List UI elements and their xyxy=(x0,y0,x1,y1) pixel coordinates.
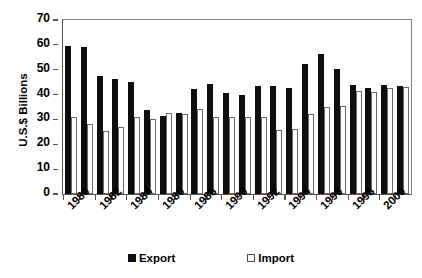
x-axis-label-cell: 2000 xyxy=(379,201,395,251)
x-axis-label-cell: 1990 xyxy=(221,201,237,251)
year-bar-group xyxy=(316,20,332,194)
bar-import xyxy=(387,88,393,194)
x-axis-label-cell xyxy=(237,201,253,251)
x-axis-label-cell xyxy=(205,201,221,251)
year-bar-group xyxy=(221,20,237,194)
x-axis-tick-mark xyxy=(126,195,127,200)
year-bar-group xyxy=(237,20,253,194)
bar-chart-figure: U.S.$ Billions 706050403020100 198019821… xyxy=(0,0,422,278)
legend-entry: Export xyxy=(128,252,175,264)
bar-import xyxy=(261,117,267,194)
legend-entry: Import xyxy=(247,252,294,264)
y-axis-tick-label: 70 xyxy=(37,12,50,24)
year-bar-group xyxy=(284,20,300,194)
x-axis-label-cell xyxy=(363,201,379,251)
x-axis-tick-mark xyxy=(379,195,380,200)
year-bar-group xyxy=(79,20,95,194)
y-axis-tick-mark xyxy=(53,44,58,45)
y-axis-tick-mark xyxy=(53,193,58,194)
bar-import xyxy=(276,130,282,194)
year-bar-group xyxy=(95,20,111,194)
year-bar-group xyxy=(63,20,79,194)
x-axis-tick-mark xyxy=(63,195,64,200)
x-axis-tick-mark xyxy=(348,195,349,200)
bar-import xyxy=(324,107,330,194)
legend-label: Import xyxy=(258,252,294,264)
filled-square-icon xyxy=(128,254,136,262)
x-axis-tick-mark xyxy=(95,195,96,200)
x-axis-label-cell: 1998 xyxy=(348,201,364,251)
y-axis-tick-mark xyxy=(53,119,58,120)
x-axis-label-cell: 1982 xyxy=(95,201,111,251)
bar-import xyxy=(87,124,93,194)
y-axis-tick-label: 50 xyxy=(37,62,50,74)
bar-import xyxy=(229,117,235,194)
year-bar-group xyxy=(126,20,142,194)
x-axis-tick-mark xyxy=(158,195,159,200)
bar-import xyxy=(182,114,188,194)
x-axis-label-cell: 1994 xyxy=(284,201,300,251)
x-axis-tick-mark xyxy=(221,195,222,200)
year-bar-group xyxy=(253,20,269,194)
bar-import xyxy=(403,87,409,194)
y-axis-tick-label: 30 xyxy=(37,111,50,123)
x-axis-label-cell xyxy=(174,201,190,251)
x-axis-label-cell xyxy=(300,201,316,251)
x-axis-label-cell: 1986 xyxy=(158,201,174,251)
year-bar-group xyxy=(158,20,174,194)
x-axis-label-cell xyxy=(332,201,348,251)
year-bar-group xyxy=(379,20,395,194)
x-axis-label-cell xyxy=(269,201,285,251)
x-axis-label-cell: 1984 xyxy=(126,201,142,251)
chart-legend: ExportImport xyxy=(0,252,422,264)
year-bar-group xyxy=(395,20,411,194)
bars-layer xyxy=(63,20,411,194)
year-bar-group xyxy=(205,20,221,194)
bar-import xyxy=(245,117,251,194)
bar-import xyxy=(340,106,346,194)
bar-import xyxy=(118,127,124,194)
y-axis-tick-label: 10 xyxy=(37,161,50,173)
y-axis-tick-labels: 706050403020100 xyxy=(0,19,58,195)
y-axis-tick-mark xyxy=(53,69,58,70)
year-bar-group xyxy=(300,20,316,194)
x-axis-label-cell: 1992 xyxy=(253,201,269,251)
x-axis-label-cell xyxy=(79,201,95,251)
year-bar-group xyxy=(363,20,379,194)
x-axis-label-cell: 1988 xyxy=(190,201,206,251)
bar-import xyxy=(150,119,156,194)
year-bar-group xyxy=(174,20,190,194)
x-axis-label-cell xyxy=(142,201,158,251)
bar-import xyxy=(134,117,140,194)
y-axis-tick-mark xyxy=(53,19,58,20)
x-axis-tick-mark xyxy=(284,195,285,200)
x-axis-tick-mark xyxy=(190,195,191,200)
year-bar-group xyxy=(332,20,348,194)
bar-import xyxy=(292,129,298,194)
year-bar-group xyxy=(348,20,364,194)
year-bar-group xyxy=(142,20,158,194)
bar-import xyxy=(71,117,77,194)
outlined-square-icon xyxy=(247,254,255,262)
x-axis-label-cell xyxy=(110,201,126,251)
x-axis-label-cell xyxy=(395,201,411,251)
bar-import xyxy=(213,117,219,194)
x-axis-label-cell: 1980 xyxy=(63,201,79,251)
x-axis-label-cell: 1996 xyxy=(316,201,332,251)
year-bar-group xyxy=(110,20,126,194)
legend-label: Export xyxy=(139,252,175,264)
y-axis-tick-mark xyxy=(53,94,58,95)
x-axis-tick-mark xyxy=(316,195,317,200)
year-bar-group xyxy=(190,20,206,194)
y-axis-tick-label: 60 xyxy=(37,37,50,49)
y-axis-tick-mark xyxy=(53,144,58,145)
bar-import xyxy=(166,113,172,194)
x-axis-tick-mark xyxy=(253,195,254,200)
y-axis-tick-mark xyxy=(53,169,58,170)
y-axis-tick-label: 0 xyxy=(43,186,50,198)
y-axis-tick-label: 40 xyxy=(37,87,50,99)
x-axis-tick-labels: 1980198219841986198819901992199419961998… xyxy=(63,201,411,251)
bar-import xyxy=(308,114,314,194)
y-axis-tick-label: 20 xyxy=(37,136,50,148)
bar-import xyxy=(103,131,109,194)
